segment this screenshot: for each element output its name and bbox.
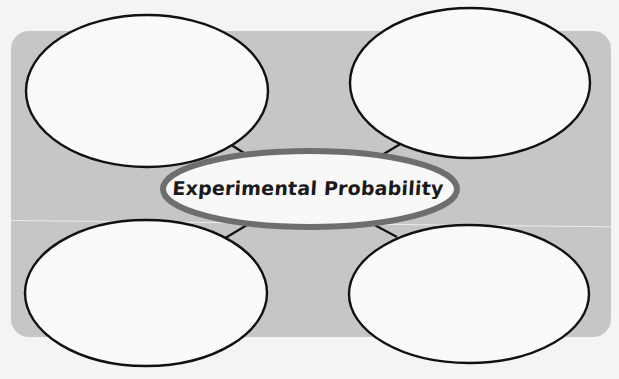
center-title: Experimental Probability bbox=[156, 163, 459, 213]
bubble-bottom-left[interactable] bbox=[25, 220, 267, 366]
bubble-bottom-right[interactable] bbox=[349, 225, 589, 363]
worksheet-page: Experimental Probability bbox=[0, 0, 619, 379]
bubble-top-right[interactable] bbox=[350, 8, 590, 158]
bubble-top-left[interactable] bbox=[26, 15, 268, 167]
